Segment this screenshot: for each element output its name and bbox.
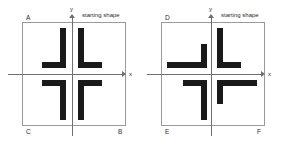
right-panel-y-axis-label: y bbox=[209, 6, 212, 12]
left-panel-y-axis bbox=[72, 18, 73, 136]
shape-bar-horizontal bbox=[42, 62, 66, 68]
left-panel-x-axis bbox=[8, 74, 122, 75]
left-panel-corner-label-c: C bbox=[26, 128, 31, 135]
shape-bar-horizontal bbox=[217, 80, 257, 86]
shape-bar-vertical bbox=[78, 80, 84, 120]
right-panel-y-axis-arrow-icon bbox=[208, 14, 214, 18]
left-panel: x y A C B starting shape bbox=[0, 0, 142, 149]
right-panel: x y D E F starting shape bbox=[143, 0, 285, 149]
shape-bar-vertical bbox=[217, 80, 223, 104]
left-panel-corner-label-a: A bbox=[26, 14, 30, 21]
left-panel-caption: starting shape bbox=[82, 12, 120, 19]
diagram-root: x y A C B starting shape bbox=[0, 0, 285, 149]
right-panel-caption: starting shape bbox=[221, 12, 259, 19]
shape-bar-horizontal bbox=[78, 80, 102, 86]
shape-bar-vertical bbox=[201, 44, 207, 68]
left-panel-y-axis-label: y bbox=[70, 6, 73, 12]
shape-bar-horizontal bbox=[42, 80, 66, 86]
shape-bar-horizontal bbox=[217, 62, 241, 68]
right-panel-x-axis-label: x bbox=[268, 71, 271, 77]
right-panel-corner-label-f: F bbox=[257, 128, 261, 135]
shape-bar-vertical bbox=[60, 80, 66, 120]
left-panel-y-axis-arrow-icon bbox=[69, 14, 75, 18]
left-panel-x-axis-label: x bbox=[129, 71, 132, 77]
left-panel-corner-label-b: B bbox=[118, 128, 122, 135]
left-panel-x-axis-arrow-icon bbox=[122, 71, 126, 77]
right-panel-corner-label-d: D bbox=[165, 14, 170, 21]
shape-bar-horizontal bbox=[78, 62, 102, 68]
right-panel-x-axis-arrow-icon bbox=[261, 71, 265, 77]
right-panel-corner-label-e: E bbox=[165, 128, 169, 135]
shape-bar-vertical bbox=[201, 80, 207, 120]
right-panel-y-axis bbox=[211, 18, 212, 136]
right-panel-x-axis bbox=[147, 74, 261, 75]
shape-bar-horizontal bbox=[183, 80, 207, 86]
